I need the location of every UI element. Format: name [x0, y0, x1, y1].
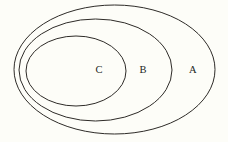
- set-a-label: A: [189, 64, 197, 75]
- euler-diagram-canvas: C B A: [0, 0, 228, 142]
- set-b-label: B: [139, 64, 146, 75]
- set-c-label: C: [95, 64, 102, 75]
- euler-diagram: C B A: [0, 0, 228, 142]
